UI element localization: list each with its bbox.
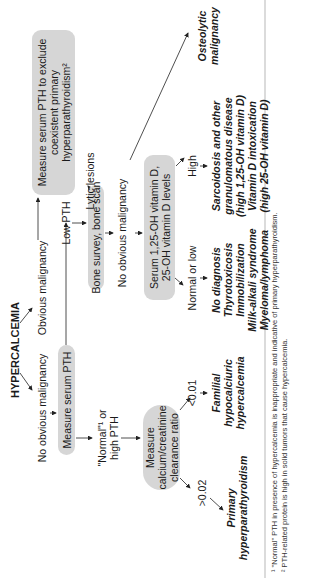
outcome-osteolytic: Osteolytic malignancy (196, 7, 220, 65)
outcome-normal-low-list: No diagnosis Thyrotoxicosis Immobilizati… (210, 228, 270, 331)
hypercalcemia-flowchart: HYPERCALCEMIA No obvious malignancy Obvi… (0, 0, 312, 578)
measure-pth-box: Measure serum PTH (58, 345, 75, 455)
serum-vitamin-d-box: Serum 1,25-OH vitamin D, 25-OH vitamin D… (144, 155, 175, 300)
exclude-hpt-box: Measure serum PTH to exclude coexistent … (32, 30, 75, 195)
branch-normal-or-low: Normal or low (186, 246, 198, 311)
branch-lt-001: <0.01 (186, 380, 198, 407)
branch-obvious-malignancy: Obvious malignancy (36, 241, 48, 336)
outcome-fhh: Familial hypocalciuric hypercalcemia (210, 357, 246, 430)
outcome-high-list: Sarcoidosis and other granulomatous dise… (210, 95, 270, 217)
calcium-creatinine-box: Measure calcium/creatinine clearance rat… (143, 405, 180, 490)
footnote-1: ¹ "Normal" PTH in presence of hypercalce… (270, 212, 279, 572)
branch-low-pth: Low PTH (60, 201, 72, 244)
branch-normal-high-pth: "Normal"¹ or high PTH (96, 409, 120, 466)
branch-no-malignancy: No obvious malignancy (36, 354, 48, 463)
outcome-primary-hpt: Primary hyperparathyroidism (225, 456, 249, 560)
branch-no-obvious-malignancy: No obvious malignancy (116, 179, 128, 288)
footnote-2: ² PTH-related protein is high in solid t… (280, 339, 289, 572)
branch-lytic-lesions: Lytic lesions (84, 153, 96, 210)
branch-gt-002: >0.02 (196, 480, 208, 507)
chart-title: HYPERCALCEMIA (9, 302, 21, 398)
branch-high: High (186, 155, 198, 177)
